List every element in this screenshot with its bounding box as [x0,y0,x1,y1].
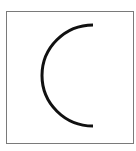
arc-diagram [0,0,136,151]
semicircle-arc [42,25,93,126]
